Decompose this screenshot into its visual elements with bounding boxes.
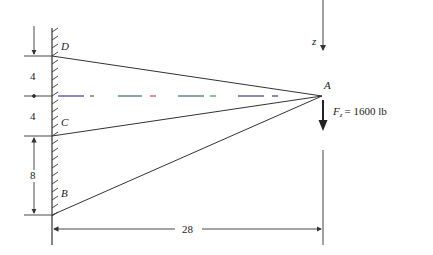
- z-axis: z: [311, 0, 323, 50]
- vertical-dimensions: [24, 26, 52, 215]
- dimension-lower: 8: [30, 169, 36, 181]
- point-label-B: B: [61, 187, 68, 199]
- z-axis-label: z: [311, 35, 317, 47]
- force-label: Fz= 1600 lb: [332, 105, 387, 119]
- cables: [52, 56, 322, 215]
- point-label-A: A: [323, 79, 331, 91]
- force-arrow: [319, 100, 328, 131]
- point-label-D: D: [60, 40, 69, 52]
- cable-AB: [52, 96, 322, 215]
- cable-AC: [52, 96, 322, 136]
- dimension-middle: 4: [30, 110, 36, 122]
- dimension-horizontal: 28: [182, 223, 194, 235]
- cable-AD: [52, 56, 322, 96]
- cable-diagram: z: [0, 0, 433, 255]
- point-label-C: C: [61, 116, 69, 128]
- dimension-upper: 4: [30, 70, 36, 82]
